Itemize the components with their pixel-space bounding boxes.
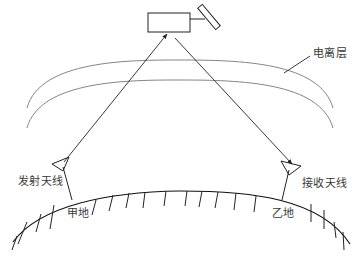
ground-hatch-mark [185, 191, 187, 206]
ground-hatch-mark [234, 193, 236, 210]
ground-hatch-mark [254, 196, 256, 212]
receive-antenna-mast [282, 170, 289, 200]
ionosphere-leader-line [284, 56, 310, 73]
ionosphere-outer-arc [27, 60, 333, 108]
satellite-icon [148, 4, 220, 32]
ground-hatch-mark [215, 192, 218, 208]
solar-panel [198, 4, 221, 29]
ground-hatching [12, 191, 344, 250]
earth-surface-arc [13, 191, 350, 244]
satellite-link-diagram [0, 0, 360, 257]
site-b-label: 乙地 [272, 208, 295, 220]
ground-hatch-mark [334, 222, 336, 238]
ionosphere-layer [27, 56, 333, 128]
ground-hatch-mark [126, 193, 129, 208]
ionosphere-label: 电离层 [313, 48, 347, 60]
transmit-antenna-label: 发射天线 [18, 176, 63, 188]
site-a-label: 甲地 [67, 208, 90, 220]
ground-hatch-mark [164, 191, 166, 206]
ground-hatch-mark [109, 195, 113, 211]
satellite-body [148, 13, 190, 32]
ground-hatch-mark [12, 236, 17, 250]
ground-hatch-mark [36, 214, 41, 232]
ionosphere-inner-arc [27, 80, 333, 128]
ground-hatch-mark [199, 191, 202, 207]
ground-hatch-mark [143, 192, 145, 208]
ground-hatch-mark [50, 205, 54, 229]
transmit-antenna-mast [63, 167, 72, 200]
uplink-signal-line [64, 34, 167, 162]
receive-antenna-icon [281, 161, 301, 200]
ground-hatch-mark [343, 232, 344, 250]
receive-antenna-label: 接收天线 [302, 178, 347, 190]
receive-antenna-dish [281, 161, 301, 175]
ground-hatch-mark [92, 200, 96, 215]
earth-surface [12, 191, 350, 250]
downlink-signal-line [175, 38, 292, 164]
ground-hatch-mark [18, 222, 27, 244]
